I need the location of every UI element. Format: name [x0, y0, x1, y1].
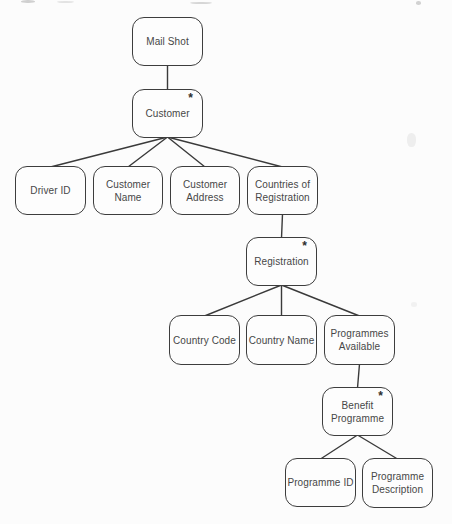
node-label-customer-name: Customer Name: [94, 178, 162, 204]
node-programme-id: Programme ID: [285, 458, 356, 507]
edge-benefit-programme-to-programme-description: [358, 435, 398, 459]
node-country-name: Country Name: [246, 315, 317, 365]
connector-lines: [0, 0, 452, 524]
node-label-registration: Registration: [254, 255, 309, 268]
node-programmes-available: Programmes Available: [324, 315, 395, 365]
node-label-countries-of-registration: Countries of Registration: [255, 178, 310, 204]
node-label-customer-address: Customer Address: [183, 178, 227, 204]
edge-benefit-programme-to-programme-id: [321, 435, 358, 459]
node-label-programmes-available: Programmes Available: [330, 327, 388, 353]
cropped-caption-fragment: [416, 1, 421, 5]
node-programme-description: Programme Description: [362, 458, 433, 508]
multiplicity-asterisk: *: [378, 389, 383, 403]
cropped-caption-fragment: [57, 1, 74, 3]
edge-registration-to-country-code: [205, 285, 282, 316]
scan-smudge: [407, 133, 416, 147]
edge-customer-to-countries-of-registration: [168, 137, 283, 167]
edge-countries-of-registration-to-registration: [282, 214, 283, 238]
edge-customer-to-driver-id: [51, 137, 168, 167]
structure-tree-diagram: Mail ShotCustomer*Driver IDCustomer Name…: [0, 0, 452, 524]
node-countries-of-registration: Countries of Registration: [247, 166, 318, 215]
node-registration: Registration*: [246, 237, 317, 286]
node-customer: Customer*: [132, 89, 203, 138]
node-label-driver-id: Driver ID: [30, 184, 70, 197]
node-label-country-name: Country Name: [249, 334, 315, 347]
node-driver-id: Driver ID: [15, 166, 86, 215]
cropped-caption-fragment: [21, 0, 35, 3]
node-label-benefit-programme: Benefit Programme: [331, 399, 384, 425]
multiplicity-asterisk: *: [302, 239, 307, 253]
scan-smudge: [411, 302, 417, 307]
cropped-caption-fragment: [190, 2, 212, 4]
node-benefit-programme: Benefit Programme*: [322, 387, 393, 436]
node-customer-address: Customer Address: [170, 166, 240, 215]
node-label-mail-shot: Mail Shot: [146, 35, 189, 48]
node-label-programme-id: Programme ID: [287, 476, 353, 489]
edge-programmes-available-to-benefit-programme: [358, 364, 360, 388]
edge-registration-to-programmes-available: [282, 285, 360, 316]
node-label-programme-description: Programme Description: [371, 470, 424, 496]
node-label-country-code: Country Code: [173, 334, 236, 347]
node-label-customer: Customer: [145, 107, 189, 120]
multiplicity-asterisk: *: [188, 91, 193, 105]
node-customer-name: Customer Name: [93, 166, 163, 215]
scanned-page: { "page": { "background": "#fcfcfc", "in…: [0, 0, 452, 524]
node-mail-shot: Mail Shot: [132, 17, 203, 66]
node-country-code: Country Code: [169, 315, 240, 365]
